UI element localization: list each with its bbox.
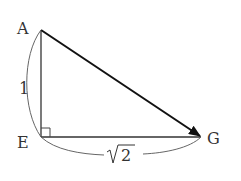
right-angle-marker [41,128,50,137]
point-label-a: A [16,19,29,38]
side-eg-length-label: 2 [107,145,135,165]
side-eg-length-value: 2 [121,146,131,165]
length-arc-eg-right [143,137,201,154]
side-ae-length-label: 1 [19,79,29,98]
point-label-e: E [17,133,29,152]
point-label-g: G [207,129,220,148]
vector-ag-arrow [41,30,200,136]
triangle-diagram: A E G 1 2 [0,0,241,181]
length-arc-eg-left [41,137,104,155]
